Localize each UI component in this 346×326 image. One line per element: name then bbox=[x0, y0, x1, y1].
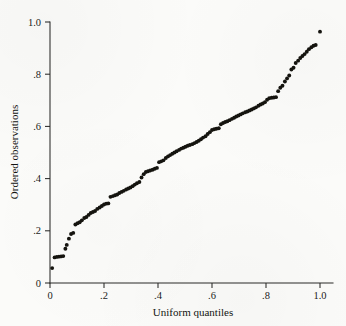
y-axis-tick-label: .4 bbox=[33, 173, 42, 184]
y-axis-tick-label: .6 bbox=[33, 121, 41, 132]
x-axis-tick-label: 0 bbox=[47, 290, 52, 301]
y-axis-tick-label: 1.0 bbox=[28, 17, 41, 28]
data-point bbox=[287, 74, 291, 78]
plot-axes bbox=[50, 22, 333, 283]
data-point bbox=[67, 237, 71, 241]
data-point bbox=[50, 266, 54, 270]
data-point bbox=[217, 126, 221, 130]
data-point bbox=[281, 84, 285, 88]
y-axis-title: Ordered observations bbox=[8, 105, 20, 199]
x-axis-title: Uniform quantiles bbox=[153, 306, 233, 318]
data-point bbox=[314, 43, 318, 47]
x-axis-tick-label: .8 bbox=[262, 290, 270, 301]
y-axis-tick-label: 0 bbox=[36, 278, 41, 289]
x-axis-tick-label: .2 bbox=[100, 290, 108, 301]
data-point bbox=[140, 176, 144, 180]
data-point bbox=[65, 243, 69, 247]
data-point bbox=[276, 89, 280, 93]
qq-plot-scatter-chart: 0.2.4.6.81.0 0.2.4.6.81.0 Uniform quanti… bbox=[0, 0, 346, 326]
data-point bbox=[71, 231, 75, 235]
x-axis-tick-label: 1.0 bbox=[313, 290, 326, 301]
y-axis-tick-label: .2 bbox=[33, 225, 41, 236]
data-point bbox=[155, 166, 159, 170]
data-point bbox=[106, 201, 110, 205]
data-point bbox=[274, 95, 278, 99]
x-axis-ticks: 0.2.4.6.81.0 bbox=[47, 283, 326, 301]
figure-panel: 0.2.4.6.81.0 0.2.4.6.81.0 Uniform quanti… bbox=[0, 0, 346, 326]
data-point bbox=[61, 254, 65, 258]
x-axis-tick-label: .4 bbox=[154, 290, 163, 301]
data-point bbox=[292, 66, 296, 70]
data-point bbox=[318, 30, 322, 34]
y-axis-ticks: 0.2.4.6.81.0 bbox=[28, 17, 50, 289]
data-point bbox=[137, 180, 141, 184]
data-point-layer bbox=[50, 30, 322, 270]
y-axis-tick-label: .8 bbox=[33, 69, 41, 80]
data-point bbox=[63, 247, 67, 251]
x-axis-tick-label: .6 bbox=[208, 290, 216, 301]
